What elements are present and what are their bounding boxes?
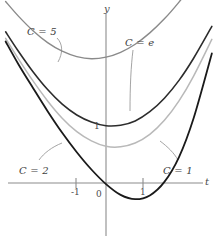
curve-label-ce: C = e	[125, 37, 154, 48]
curve-label-c5: C = 5	[27, 26, 57, 37]
x-axis-label: t	[205, 176, 209, 187]
curve-c-e	[6, 26, 212, 126]
leader-line-ce	[130, 50, 133, 111]
leader-line-c2	[39, 143, 62, 160]
curve-label-c2: C = 2	[19, 165, 49, 176]
y-axis-label: y	[104, 3, 110, 14]
x-tick-label-pos1: 1	[140, 187, 146, 197]
figure-container: y t -1 0 1 1 C = 5 C = e C = 2 C = 1	[0, 0, 221, 242]
curve-label-c1: C = 1	[163, 165, 193, 176]
y-tick-label-one: 1	[94, 121, 100, 131]
x-tick-label-zero: 0	[96, 189, 102, 199]
leader-line-c1	[160, 141, 178, 160]
x-tick-label-neg1: -1	[71, 187, 80, 197]
